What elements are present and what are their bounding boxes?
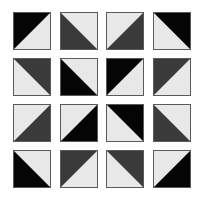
half-triangle-tile <box>153 58 191 96</box>
triangle-shape-icon <box>154 151 190 187</box>
triangle-shape-icon <box>61 105 97 141</box>
half-triangle-tile <box>106 150 144 188</box>
triangle-shape-icon <box>61 13 97 49</box>
triangle-shape-icon <box>107 59 143 95</box>
half-triangle-tile <box>60 150 98 188</box>
triangle-shape-icon <box>154 59 190 95</box>
triangle-shape-icon <box>14 151 50 187</box>
triangle-shape-icon <box>61 151 97 187</box>
half-triangle-tile <box>13 58 51 96</box>
half-triangle-tile <box>60 104 98 142</box>
triangle-shape-icon <box>14 59 50 95</box>
half-triangle-tile <box>106 12 144 50</box>
half-triangle-tile <box>153 12 191 50</box>
triangle-shape-icon <box>154 105 190 141</box>
half-triangle-tile <box>153 150 191 188</box>
half-triangle-tile <box>106 104 144 142</box>
half-triangle-tile <box>13 104 51 142</box>
half-triangle-tile <box>153 104 191 142</box>
triangle-tile-grid <box>13 12 191 188</box>
half-triangle-tile <box>106 58 144 96</box>
half-triangle-tile <box>60 12 98 50</box>
half-triangle-tile <box>13 12 51 50</box>
half-triangle-tile <box>60 58 98 96</box>
triangle-shape-icon <box>154 13 190 49</box>
triangle-shape-icon <box>14 13 50 49</box>
triangle-shape-icon <box>61 59 97 95</box>
triangle-shape-icon <box>14 105 50 141</box>
triangle-shape-icon <box>107 105 143 141</box>
half-triangle-tile <box>13 150 51 188</box>
triangle-shape-icon <box>107 151 143 187</box>
triangle-shape-icon <box>107 13 143 49</box>
